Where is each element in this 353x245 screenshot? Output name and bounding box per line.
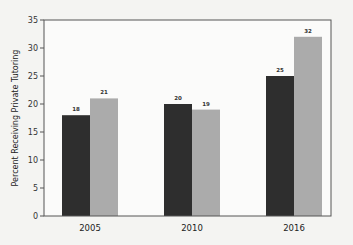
bar-chart: 18212005201920102532201605101520253035 [0,0,353,245]
bar-2010-2 [192,110,220,216]
bar-2016-2 [294,37,322,216]
y-tick-label: 25 [28,72,38,81]
x-tick-label: 2005 [79,223,101,233]
plot-area: 18212005201920102532201605101520253035 [28,16,331,233]
data-label: 20 [174,95,182,101]
data-label: 25 [276,67,284,73]
bar-2005-1 [62,115,90,216]
y-tick-label: 0 [33,212,38,221]
y-tick-label: 30 [28,44,38,53]
bar-2010-1 [164,104,192,216]
x-tick-label: 2016 [283,223,305,233]
y-tick-label: 15 [28,128,38,137]
bar-2016-1 [266,76,294,216]
data-label: 32 [304,28,312,34]
y-tick-label: 5 [33,184,38,193]
data-label: 19 [202,101,210,107]
data-label: 18 [72,106,80,112]
y-axis-label: Percent Receiving Private Tutoring [11,50,20,187]
y-tick-label: 10 [28,156,38,165]
y-tick-label: 35 [28,16,38,25]
x-tick-label: 2010 [181,223,203,233]
y-tick-label: 20 [28,100,38,109]
bar-2005-2 [90,98,118,216]
data-label: 21 [100,89,108,95]
